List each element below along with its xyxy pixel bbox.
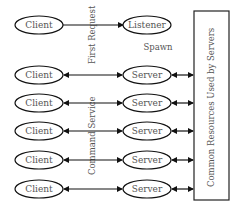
common-resources-label: Common Resources Used by Servers: [206, 28, 216, 187]
command-service-label: Command Service: [87, 96, 97, 175]
server-label: Server: [132, 155, 163, 165]
server-label: Server: [132, 184, 163, 194]
client-label: Client: [25, 70, 53, 80]
client-label: Client: [25, 126, 53, 136]
spawn-label: Spawn: [143, 42, 173, 52]
client-label: Client: [25, 98, 53, 108]
server-row: Client Server: [15, 122, 193, 140]
server-row: Client Server: [15, 151, 193, 169]
client-label: Client: [25, 20, 53, 30]
listener-label: Listener: [128, 20, 167, 30]
server-label: Server: [132, 126, 163, 136]
server-row: Client Server: [15, 94, 193, 112]
client-label: Client: [25, 184, 53, 194]
server-row: Client Server: [15, 66, 193, 84]
client-server-diagram: Client Listener First Request Spawn Comm…: [0, 0, 240, 212]
server-row: Client Server: [15, 180, 193, 198]
server-label: Server: [132, 70, 163, 80]
server-label: Server: [132, 98, 163, 108]
first-request-label: First Request: [87, 5, 97, 64]
client-label: Client: [25, 155, 53, 165]
